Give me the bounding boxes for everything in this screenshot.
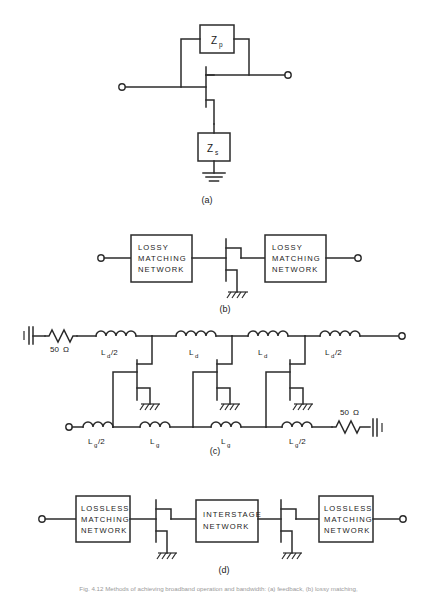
panel-a-feedback-right-wire [234,39,249,75]
panel-c-drain-inductor-4 [320,331,360,336]
panel-d-fet-1-source-stub [156,531,167,553]
panel-b-block-left-line3: NETWORK [138,265,185,274]
panel-d-block-mid-line2: NETWORK [203,522,250,531]
panel-d-fet-2-source-stub [281,531,292,553]
panel-c-gate-inductor-1-suffix: /2 [98,437,105,446]
panel-b-caption: (b) [220,304,231,314]
panel-b-block-right-line1: LOSSY [272,243,303,252]
panel-c-gate-inductor-1-sub: g [94,442,97,448]
circuit-figure: Z p Z s (a) LOS [0,0,437,597]
panel-c-fet-1-source-stub [137,388,150,404]
panel-d-fet-2-drain-stub [281,509,296,519]
panel-c-gate-inductor-2-sub: g [156,442,159,448]
panel-c-gate-inductor-2-base: L [150,437,155,446]
panel-c-drain-inductor-3 [248,331,288,336]
panel-d-output-port [400,516,406,522]
panel-d-block-interstage-network [196,500,258,542]
panel-c-fet-1-gate-stub [113,372,137,427]
panel-d-fet-1 [156,500,196,559]
panel-c-drain-inductor-4-sub: d [331,353,334,359]
panel-b-ground-icon [227,292,248,298]
panel-d-block-in-line1: LOSSLESS [81,504,129,513]
panel-a-caption: (a) [202,195,213,205]
panel-d-block-mid-line1: INTERSTAGE [203,510,262,519]
panel-b-input-port [98,255,104,261]
panel-c-gate-inductor-4-base: L [289,437,294,446]
panel-a-zs-label: Z [207,143,213,154]
panel-c-fet-2-drain-stub [217,336,232,364]
panel-c-gate-inductor-4-sub: g [295,442,298,448]
panel-a-ground-icon [203,173,225,181]
panel-b-block-left-line2: MATCHING [138,254,187,263]
panel-c-fet-3-drain-stub [290,336,305,364]
panel-c-gate-resistor-50ohm [332,421,370,433]
panel-c-drain-inductor-1 [96,331,136,336]
panel-d-block-out-line3: NETWORK [324,526,371,535]
panel-c-fet-2 [193,336,240,427]
panel-c-drain-inductor-1-suffix: /2 [111,348,118,357]
panel-b-block-left-line1: LOSSY [138,243,169,252]
panel-c-fet-1 [113,336,160,427]
panel-c-drain-inductor-3-base: L [258,348,263,357]
panel-c-fet-3-source-stub [290,388,303,404]
panel-c-drain-resistor-50ohm [45,330,77,342]
panel-c-drain-termination-symbol [24,327,33,344]
panel-c: 50 Ω L d /2 L d L d L d /2 [24,327,405,456]
panel-c-drain-resistor-ohm-symbol: Ω [63,345,69,354]
panel-c-gate-resistor-label: 50 [340,408,349,417]
panel-c-drain-inductor-2-base: L [189,348,194,357]
panel-c-drain-inductor-3-sub: d [264,353,267,359]
figure-svg: Z p Z s (a) LOS [0,0,437,597]
panel-b-fet-drain-stub [226,248,241,258]
panel-a-input-port [119,84,125,90]
panel-c-drain-inductor-2 [176,331,216,336]
panel-c-gate-inductor-3-sub: g [227,442,230,448]
panel-d-block-out-line1: LOSSLESS [324,504,372,513]
panel-c-gate-inductor-4 [282,422,312,427]
panel-a-zp-label: Z [211,35,217,46]
panel-c-fet-3-ground-icon [293,404,313,410]
panel-a-zp-sublabel: p [219,41,223,49]
panel-c-gate-inductor-2 [140,422,170,427]
panel-d-block-in-line3: NETWORK [81,526,128,535]
panel-d-input-port [39,516,45,522]
panel-c-fet-1-ground-icon [140,404,160,410]
panel-d: LOSSLESS MATCHING NETWORK INTERSTAGE NET… [39,496,406,575]
panel-b-output-port [355,255,361,261]
panel-c-drain-inductor-4-base: L [325,348,330,357]
panel-c-gate-inductor-4-suffix: /2 [299,437,306,446]
panel-d-block-out-line2: MATCHING [324,515,373,524]
panel-a-feedback-left-wire [181,39,200,87]
panel-c-drain-inductor-1-base: L [101,348,106,357]
panel-b-block-right-line2: MATCHING [272,254,321,263]
panel-c-gate-resistor-ohm-symbol: Ω [353,408,359,417]
panel-d-fet-2 [281,500,319,559]
panel-c-fet-3 [266,336,313,427]
panel-c-fet-3-gate-stub [266,372,290,427]
panel-c-fet-2-ground-icon [220,404,240,410]
panel-c-gate-termination-symbol [373,419,382,436]
panel-c-fet-2-gate-stub [193,372,217,427]
panel-d-fet-1-drain-stub [156,509,171,519]
panel-c-gate-inductor-3-base: L [221,437,226,446]
panel-d-block-in-line2: MATCHING [81,515,130,524]
panel-b: LOSSY MATCHING NETWORK LOSSY MATCHING NE… [98,235,361,314]
panel-a-output-port [285,72,291,78]
figure-caption: Fig. 4.12 Methods of achieving broadband… [0,585,437,593]
panel-d-fet-2-ground-icon [282,553,302,559]
panel-b-fet-source-stub [226,270,237,292]
panel-c-input-port [66,424,72,430]
panel-c-caption: (c) [210,446,221,456]
panel-c-gate-inductor-1 [83,422,113,427]
panel-a: Z p Z s (a) [119,25,291,205]
panel-a-zs-box [198,133,230,161]
panel-c-drain-resistor-label: 50 [50,345,59,354]
panel-c-fet-1-drain-stub [137,336,152,364]
panel-d-caption: (d) [219,565,230,575]
panel-c-drain-inductor-1-sub: d [107,353,110,359]
panel-c-gate-inductor-3 [211,422,241,427]
panel-d-fet-1-ground-icon [157,553,177,559]
panel-c-fet-2-source-stub [217,388,230,404]
panel-a-fet-source-stub [206,100,214,124]
panel-c-drain-inductor-2-sub: d [195,353,198,359]
